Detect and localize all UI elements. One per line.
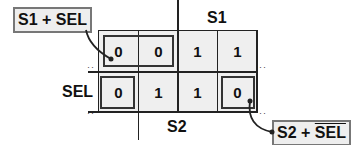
connector-dot-top-left	[109, 57, 114, 62]
connector-dot-bottom-right	[248, 99, 253, 104]
connector-top-left	[86, 30, 111, 59]
connector-dot-end	[270, 130, 275, 135]
connector-bottom-right	[250, 101, 272, 132]
callout-connectors	[0, 0, 364, 145]
